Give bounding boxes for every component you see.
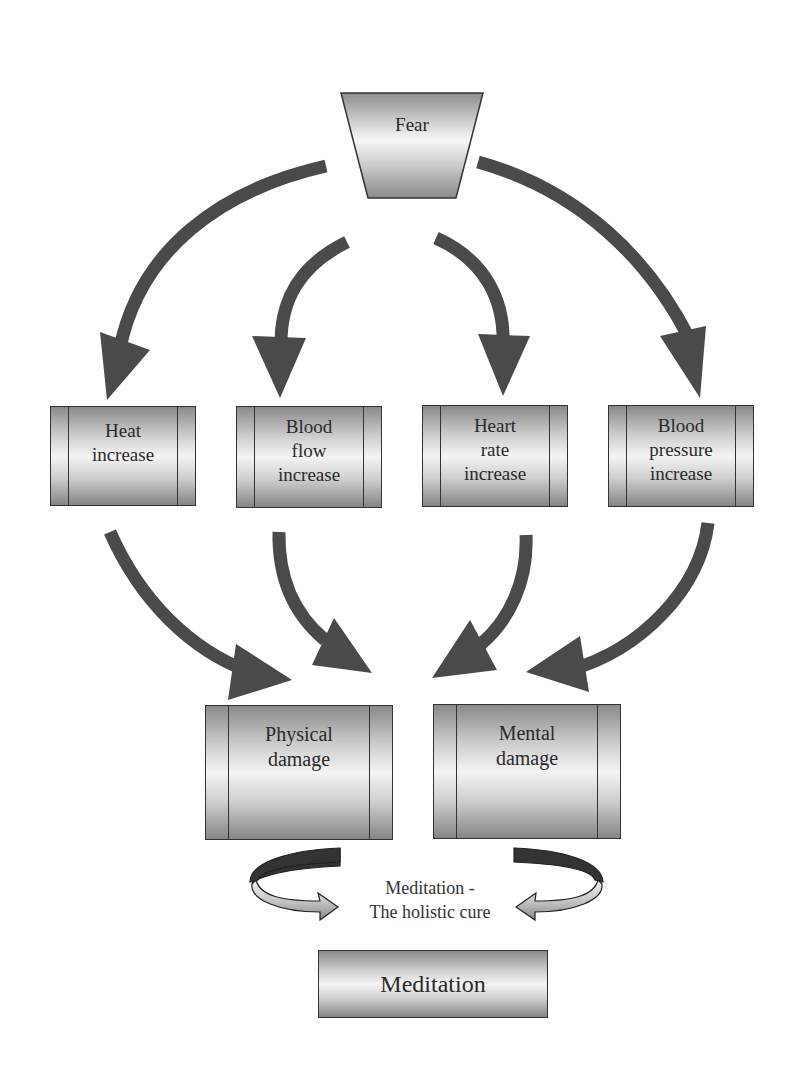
node-label: Heart rate increase bbox=[464, 406, 526, 486]
node-heart-rate-increase: Heart rate increase bbox=[422, 405, 568, 507]
node-label: Mental damage bbox=[496, 705, 558, 771]
cure-arrow-right bbox=[514, 848, 603, 920]
node-label: Heat increase bbox=[92, 407, 154, 467]
arrowhead-heartrate-mental bbox=[432, 620, 497, 678]
arrowhead-bloodpressure-mental bbox=[526, 636, 589, 692]
node-blood-flow-increase: Blood flow increase bbox=[236, 406, 382, 508]
fear-label: Fear bbox=[340, 114, 484, 136]
arrowhead-bloodflow-physical bbox=[312, 618, 372, 673]
fear-node: Fear bbox=[340, 92, 484, 200]
node-divider bbox=[456, 705, 457, 838]
node-divider bbox=[254, 407, 255, 507]
node-label: Blood flow increase bbox=[278, 407, 340, 487]
cure-arrow-left bbox=[250, 848, 340, 920]
node-divider bbox=[68, 407, 69, 505]
arrowhead-bloodflow bbox=[252, 336, 306, 398]
node-divider bbox=[369, 706, 370, 839]
arrow-fear-to-bloodflow bbox=[281, 242, 347, 346]
node-divider bbox=[363, 407, 364, 507]
node-divider bbox=[228, 706, 229, 839]
arrow-fear-to-bloodpressure bbox=[478, 162, 690, 340]
arrow-heat-to-physical bbox=[110, 532, 250, 672]
node-label: Blood pressure increase bbox=[649, 406, 712, 486]
arrowhead-physical bbox=[228, 644, 292, 700]
meditation-label: Meditation bbox=[380, 971, 485, 998]
node-divider bbox=[597, 705, 598, 838]
node-label: Physical damage bbox=[265, 706, 333, 772]
node-blood-pressure-increase: Blood pressure increase bbox=[608, 405, 754, 507]
arrow-fear-to-heat bbox=[120, 166, 326, 348]
node-meditation: Meditation bbox=[318, 950, 548, 1018]
arrowhead-heat bbox=[100, 332, 150, 400]
node-divider bbox=[735, 406, 736, 506]
arrow-bloodpressure-to-mental bbox=[570, 523, 708, 670]
arrowhead-heartrate bbox=[478, 334, 530, 396]
node-heat-increase: Heat increase bbox=[50, 406, 196, 506]
node-divider bbox=[549, 406, 550, 506]
arrowhead-bloodpressure bbox=[660, 326, 706, 398]
node-physical-damage: Physical damage bbox=[205, 705, 393, 840]
node-mental-damage: Mental damage bbox=[433, 704, 621, 839]
arrow-fear-to-heartrate bbox=[436, 238, 503, 346]
arrow-heartrate-to-mental bbox=[480, 535, 526, 645]
arrow-bloodflow-to-physical bbox=[279, 532, 325, 640]
trapezoid-shape bbox=[340, 92, 484, 200]
node-divider bbox=[626, 406, 627, 506]
node-divider bbox=[440, 406, 441, 506]
cure-caption: Meditation - The holistic cure bbox=[340, 876, 520, 924]
node-divider bbox=[177, 407, 178, 505]
